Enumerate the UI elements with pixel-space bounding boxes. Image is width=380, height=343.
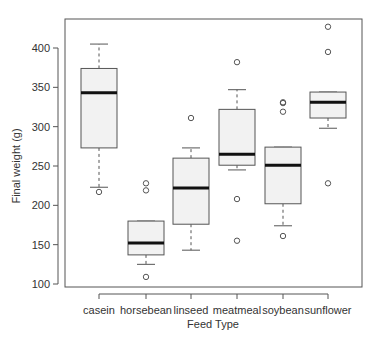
x-tick-label: casein bbox=[83, 304, 115, 316]
outlier-point bbox=[325, 24, 330, 29]
y-axis: 100150200250300350400 bbox=[32, 42, 58, 290]
y-tick-label: 400 bbox=[32, 42, 50, 54]
y-tick-label: 350 bbox=[32, 81, 50, 93]
y-tick-label: 250 bbox=[32, 160, 50, 172]
iqr-box bbox=[81, 68, 117, 147]
iqr-box bbox=[310, 92, 346, 118]
outlier-point bbox=[143, 188, 148, 193]
box-meatmeal bbox=[219, 59, 255, 243]
x-axis-title: Feed Type bbox=[187, 318, 239, 330]
iqr-box bbox=[265, 147, 301, 204]
box-sunflower bbox=[310, 24, 346, 186]
plot-frame bbox=[65, 19, 362, 287]
x-tick-label: sunflower bbox=[304, 304, 351, 316]
x-tick-label: soybean bbox=[262, 304, 304, 316]
outlier-point bbox=[325, 49, 330, 54]
box-series bbox=[81, 24, 346, 280]
outlier-point bbox=[143, 274, 148, 279]
boxplot-chart: 100150200250300350400 caseinhorsebeanlin… bbox=[0, 0, 380, 343]
y-tick-label: 300 bbox=[32, 121, 50, 133]
box-casein bbox=[81, 44, 117, 195]
y-tick-label: 100 bbox=[32, 278, 50, 290]
outlier-point bbox=[280, 109, 285, 114]
iqr-box bbox=[173, 158, 209, 224]
y-tick-label: 200 bbox=[32, 199, 50, 211]
box-horsebean bbox=[128, 181, 164, 280]
outlier-point bbox=[188, 115, 193, 120]
outlier-point bbox=[280, 233, 285, 238]
box-soybean bbox=[265, 100, 301, 239]
outlier-point bbox=[96, 189, 101, 194]
x-tick-label: linseed bbox=[174, 304, 209, 316]
outlier-point bbox=[234, 59, 239, 64]
x-tick-label: meatmeal bbox=[213, 304, 261, 316]
y-axis-title: Final weight (g) bbox=[10, 128, 22, 203]
box-linseed bbox=[173, 115, 209, 250]
outlier-point bbox=[234, 238, 239, 243]
iqr-box bbox=[219, 109, 255, 165]
x-tick-label: horsebean bbox=[120, 304, 172, 316]
outlier-point bbox=[143, 181, 148, 186]
y-tick-label: 150 bbox=[32, 239, 50, 251]
iqr-box bbox=[128, 221, 164, 255]
outlier-point bbox=[234, 196, 239, 201]
x-axis: caseinhorsebeanlinseedmeatmealsoybeansun… bbox=[83, 294, 352, 316]
outlier-point bbox=[325, 181, 330, 186]
